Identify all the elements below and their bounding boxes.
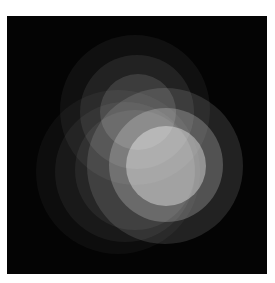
circle-main-inner — [126, 126, 206, 206]
image-frame — [7, 16, 267, 274]
